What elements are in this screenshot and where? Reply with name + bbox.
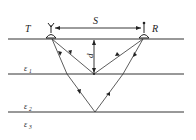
layer2-label: ε 2 <box>24 102 32 112</box>
svg-text:3: 3 <box>28 124 32 130</box>
svg-text:2: 2 <box>29 106 32 112</box>
layer1-label: ε 1 <box>24 64 32 74</box>
depth-label: d <box>85 53 95 58</box>
svg-text:ε: ε <box>24 102 28 111</box>
separation-label: S <box>93 15 98 26</box>
svg-text:ε: ε <box>24 120 28 129</box>
layer3-label: ε 3 <box>24 120 32 130</box>
separation-arrow <box>55 26 141 30</box>
gpr-diagram: T R S d ε 1 ε 2 ε 3 <box>0 0 196 140</box>
receiver-antenna-icon <box>139 22 149 38</box>
transmitter-label: T <box>25 23 32 34</box>
reflection-point-1 <box>93 73 95 75</box>
transmitter-antenna-icon <box>46 23 56 38</box>
ray-path-layer1 <box>52 39 143 74</box>
svg-text:ε: ε <box>24 64 28 73</box>
svg-text:1: 1 <box>29 68 32 74</box>
receiver-label: R <box>151 23 158 34</box>
